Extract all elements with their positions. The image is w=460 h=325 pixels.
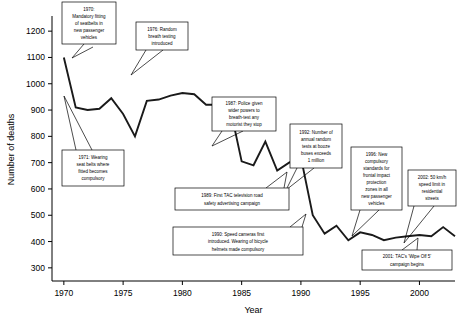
callout-leader-line <box>286 168 314 190</box>
x-axis-title: Year <box>244 305 262 315</box>
y-axis-tick-label: 600 <box>31 184 45 194</box>
annotation-2001: 2001: TAC's 'Wipe Off 5'campaign begins <box>362 238 452 270</box>
callout-leader-line <box>352 210 379 236</box>
callout-text-line: streets <box>425 196 439 201</box>
y-axis-tick-label: 300 <box>31 263 45 273</box>
callout-text-line: seat belts where <box>77 162 110 167</box>
callout-text-line: campaign begins <box>390 262 425 267</box>
callout-text-line: 1992: Number of <box>299 130 333 135</box>
callout-text-line: speed limit in <box>419 182 446 187</box>
callout-text-line: compulsory <box>81 176 105 181</box>
callout-text-line: 2002: 50 km/h <box>418 175 447 180</box>
y-axis-tick-label: 900 <box>31 105 45 115</box>
callout-leader-line <box>131 50 163 75</box>
y-axis-tick-label: 500 <box>31 210 45 220</box>
annotation-1992: 1992: Number ofannual randomtests at boo… <box>286 124 342 190</box>
callout-text-line: 1970: <box>83 7 94 12</box>
callout-text-line: 2001: TAC's 'Wipe Off 5' <box>383 254 431 259</box>
y-axis-tick-label: 1000 <box>26 79 45 89</box>
x-axis-tick-label: 1985 <box>232 288 251 298</box>
callout-leader-line <box>404 206 434 243</box>
callout-text-line: 1971: Wearing <box>78 155 108 160</box>
y-axis-tick-label: 400 <box>31 237 45 247</box>
callout-text-line: breath-test any <box>229 115 260 120</box>
callout-text-line: introduced. Wearing of bicycle <box>208 239 269 244</box>
callout-text-line: compulsory <box>365 159 389 164</box>
callout-text-line: new passenger <box>361 194 392 199</box>
callout-text-line: protection <box>367 180 387 185</box>
x-axis-tick-label: 1995 <box>351 288 370 298</box>
callout-leader-line <box>64 96 92 150</box>
callout-text-line: standards for <box>363 166 390 171</box>
callout-text-line: zones in all <box>365 187 388 192</box>
callout-text-line: vehicles <box>81 35 98 40</box>
callout-text-line: frontal impact <box>363 173 391 178</box>
y-axis-tick-label: 700 <box>31 158 45 168</box>
annotation-1976: 1976: Randombreath testingintroduced <box>131 22 188 75</box>
callout-text-line: 1976: Random <box>147 27 177 32</box>
callout-text-line: breath testing <box>148 34 176 39</box>
callout-text-line: 1 million <box>308 158 325 163</box>
x-axis-tick-label: 1980 <box>173 288 192 298</box>
callout-text-line: annual random <box>301 137 331 142</box>
y-axis-title: Number of deaths <box>6 113 16 185</box>
callout-leader-line <box>266 172 287 188</box>
callout-leader-line <box>72 44 93 58</box>
annotation-1987: 1987: Police givenwider powers tobreath-… <box>212 97 276 146</box>
callout-text-line: helmets made compulsory <box>212 247 265 252</box>
x-axis-tick-label: 2000 <box>410 288 429 298</box>
road-deaths-line-chart: 3004005006007008009001000110012001970197… <box>0 0 460 325</box>
x-axis-tick-label: 1975 <box>114 288 133 298</box>
y-axis-tick-label: 1100 <box>27 52 46 62</box>
x-axis-tick-label: 1990 <box>291 288 310 298</box>
callout-leader-line <box>290 214 306 227</box>
callout-box <box>362 250 452 270</box>
callout-text-line: buses exceeds <box>301 151 332 156</box>
annotation-1970: 1970:Mandatory fittingof seatbelts innew… <box>62 2 116 58</box>
callout-text-line: of seatbelts in <box>75 21 103 26</box>
callout-text-line: tests at booze <box>302 144 331 149</box>
y-axis-tick-label: 1200 <box>26 26 45 36</box>
callout-leader-line <box>402 238 418 250</box>
callout-text-line: vehicles <box>368 201 385 206</box>
callout-text-line: 1990: Speed cameras first <box>212 232 265 237</box>
callout-text-line: wider powers to <box>228 108 260 113</box>
y-axis-tick-label: 800 <box>31 131 45 141</box>
callout-text-line: fitted becomes <box>78 169 108 174</box>
callout-text-line: introduced <box>151 41 173 46</box>
callout-text-line: 1987: Police given <box>226 101 263 106</box>
x-axis-tick-label: 1970 <box>54 288 73 298</box>
chart-canvas: 3004005006007008009001000110012001970197… <box>0 0 460 325</box>
annotation-1989: 1989: First TAC television roadsafety ad… <box>175 172 289 210</box>
callout-text-line: new passenger <box>74 28 105 33</box>
callout-text-line: Mandatory fitting <box>72 14 106 19</box>
annotation-1996: 1996: Newcompulsorystandards forfrontal … <box>351 147 402 236</box>
callout-box <box>175 188 289 210</box>
callout-text-line: 1989: First TAC television road <box>201 193 263 198</box>
callout-text-line: residential <box>422 189 443 194</box>
callout-text-line: safety advertising campaign <box>204 201 260 206</box>
callout-text-line: 1996: New <box>366 152 388 157</box>
annotation-1990: 1990: Speed cameras firstintroduced. Wea… <box>173 214 306 255</box>
callout-text-line: motorist they stop <box>226 122 262 127</box>
